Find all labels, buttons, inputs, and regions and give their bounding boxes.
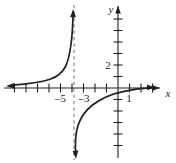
y-axis [115,6,121,158]
curve-left-branch [6,9,76,89]
x-tick-label-minus-5: –5 [54,92,67,104]
coordinate-plane: –5 –3 1 2 y x [0,0,176,163]
right-branch-down-arrowhead [73,150,79,159]
x-tick-label-minus-3: –3 [78,92,91,104]
left-branch-up-arrowhead [70,9,76,17]
x-tick-label-1: 1 [126,92,132,104]
graph-figure: –5 –3 1 2 y x [0,0,176,163]
y-axis-label: y [108,3,114,15]
x-axis-label: x [165,87,171,99]
left-branch-path [12,17,73,86]
y-tick-label-2: 2 [105,59,111,71]
y-axis-arrowhead [115,6,121,14]
